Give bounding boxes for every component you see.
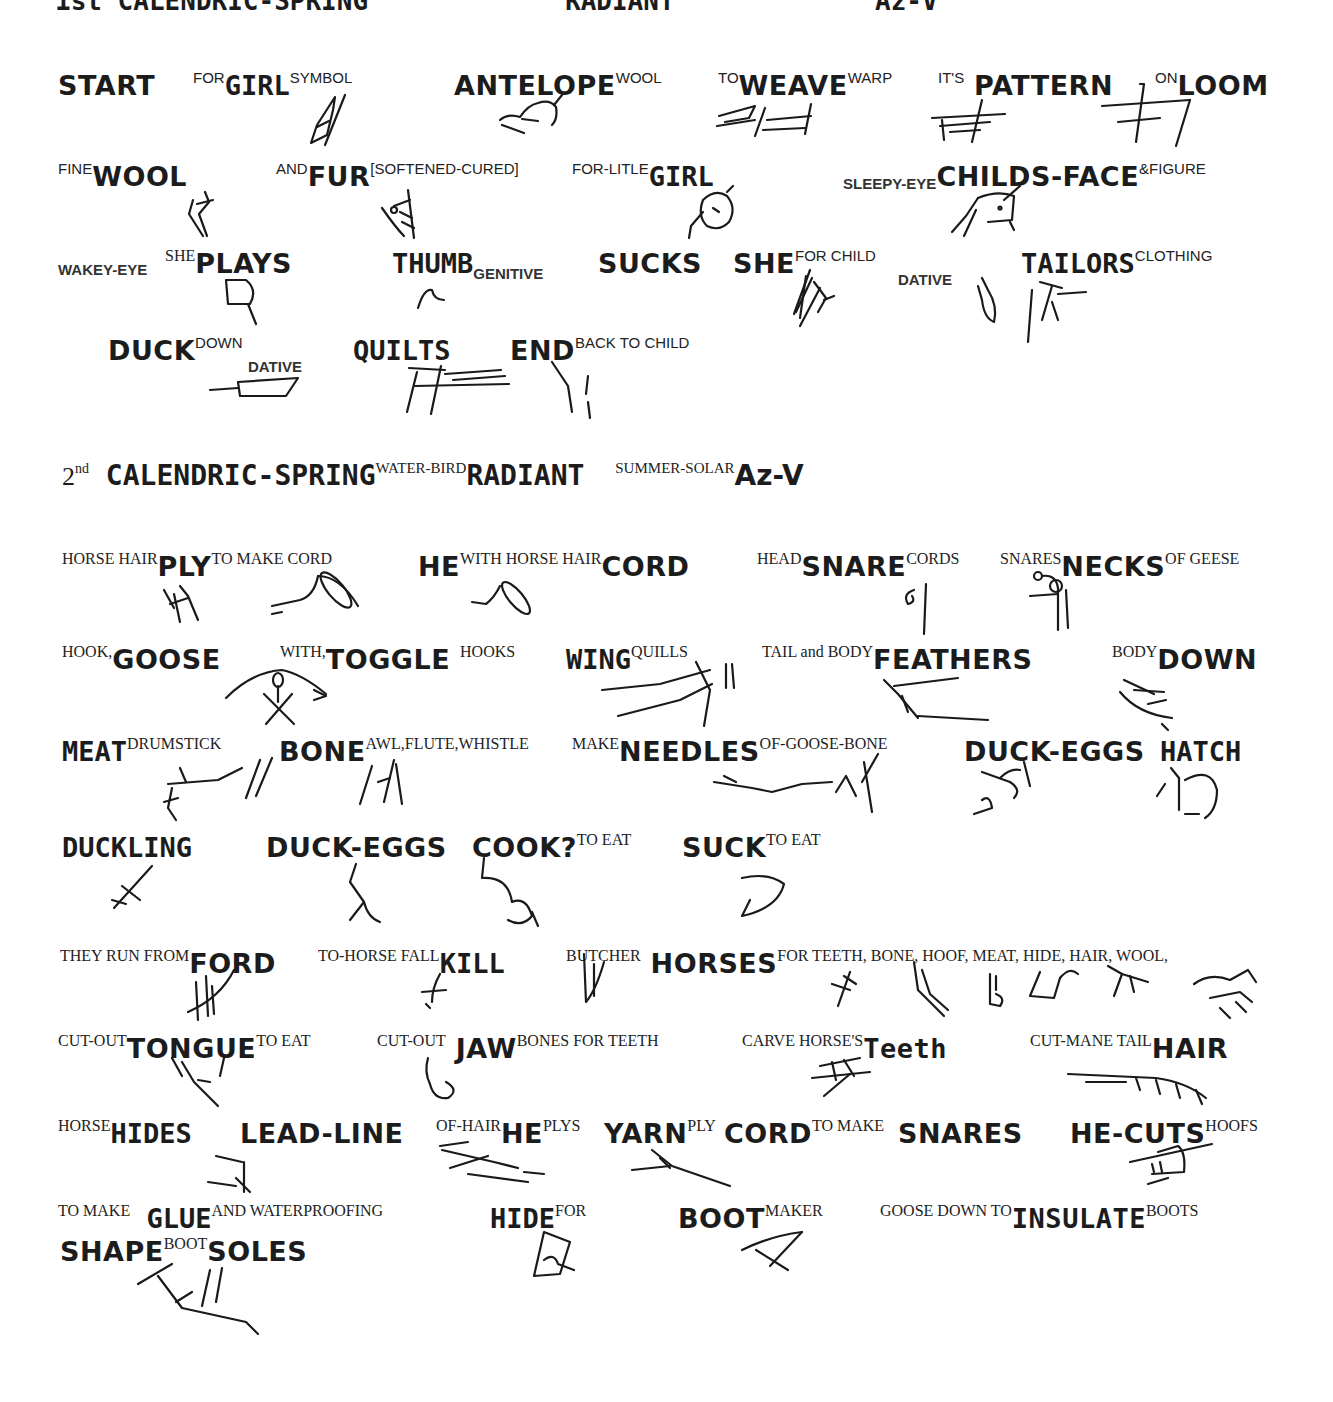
hair-wool-glyph [1190, 962, 1265, 1026]
wool-glyph [185, 190, 225, 244]
hides-glyph [206, 1152, 266, 1201]
word-glue: TO MAKE GLUEAND WATERPROOFING [58, 1205, 383, 1232]
word-he: HEWITH HORSE HAIRCORD [418, 553, 689, 580]
hoof-glyph [984, 972, 1014, 1016]
snare-glyph [900, 582, 940, 641]
word-fine-wool: FINEWOOL [58, 163, 187, 190]
duckling-glyph [108, 864, 158, 918]
jaw-glyph [420, 1056, 470, 1110]
bone-glyph [358, 758, 413, 812]
word-cord-2: CORDTO MAKE [724, 1120, 884, 1147]
feathers-glyph [878, 676, 998, 730]
needles-glyph [712, 752, 902, 821]
loom-glyph [1100, 82, 1195, 156]
word-dative-2: DATIVE [248, 349, 302, 376]
cook-glyph [478, 856, 548, 935]
word-sucks: SUCKS [598, 250, 702, 277]
soles-glyph [136, 1262, 266, 1346]
word-she-plays: SHEPLAYS [165, 250, 292, 277]
carve-teeth-glyph [810, 1054, 880, 1103]
bone-2-glyph [908, 960, 958, 1024]
word-thumb: THUMBGENITIVE [392, 250, 543, 277]
lead-line-glyph [438, 1138, 558, 1192]
word-pattern: IT'S PATTERN [938, 72, 1113, 99]
kill-glyph [418, 972, 458, 1016]
word-feathers: TAIL and BODYFEATHERS [762, 646, 1032, 673]
meat-glyph [158, 758, 298, 827]
girl-face-glyph [683, 186, 743, 245]
cutoff-heading-text: 1st CALENDRIC-SPRING [55, 0, 368, 16]
document-page: 1st CALENDRIC-SPRING RADIANT Az-V START … [0, 0, 1333, 1402]
hooves-glyph [1128, 1142, 1228, 1191]
word-goose: HOOK,GOOSE [62, 646, 221, 673]
pattern-glyph [930, 100, 1010, 149]
word-snares: SNARES [898, 1120, 1023, 1147]
mane-tail-glyph [1066, 1068, 1226, 1112]
down-glyph [1114, 674, 1184, 738]
tongue-glyph [168, 1056, 238, 1115]
word-lead-line: LEAD-LINE [240, 1120, 403, 1147]
duck-eggs-glyph [970, 760, 1050, 824]
necks-glyph [1028, 568, 1078, 637]
hide-boot-glyph [530, 1230, 590, 1284]
quilts-glyph [405, 360, 525, 419]
cutoff-heading: 1st CALENDRIC-SPRING RADIANT Az-V [55, 0, 368, 16]
word-shape-soles: SHAPEBOOTSOLES [60, 1238, 307, 1265]
hatch-glyph [1155, 766, 1235, 830]
suck-glyph [728, 870, 788, 929]
word-insulate: GOOSE DOWN TOINSULATEBOOTS [880, 1205, 1198, 1232]
antelope-glyph [498, 95, 568, 139]
word-hair: CUT-MANE TAILHAIR [1030, 1035, 1228, 1062]
he-cord-glyph [470, 578, 550, 627]
word-down: BODYDOWN [1112, 646, 1257, 673]
word-wakey-eye: WAKEY-EYE [58, 258, 147, 274]
plays-glyph [220, 276, 270, 335]
butcher-glyph [578, 952, 618, 1016]
she-glyph [790, 268, 850, 332]
dative-glyph [976, 276, 1006, 330]
word-kill: TO-HORSE FALLKILL [318, 950, 505, 977]
word-yarn: YARNPLY [604, 1120, 716, 1147]
boot-maker-glyph [740, 1230, 810, 1279]
thumb-glyph [414, 282, 454, 316]
end-glyph [550, 360, 610, 429]
word-suck: SUCKTO EAT [682, 834, 820, 861]
cord-glyph [270, 566, 370, 625]
word-weave: TOWEAVEWARP [718, 72, 892, 99]
word-hide-for: HIDEFOR [490, 1205, 586, 1232]
weave-glyph [715, 98, 825, 142]
goose-toggle-glyph [222, 668, 332, 732]
word-duckling: DUCKLING [62, 834, 192, 861]
duck-eggs-2-glyph [340, 862, 390, 931]
cutoff-az: Az-V [875, 0, 938, 16]
cutoff-radiant: RADIANT [565, 0, 675, 16]
word-dative: DATIVE [898, 262, 952, 289]
word-boot-maker: BOOTMAKER [678, 1205, 823, 1232]
section-heading-2nd-spring: 2nd CALENDRIC-SPRINGWATER-BIRDRADIANT SU… [62, 462, 804, 490]
girl-symbol-glyph [305, 95, 355, 154]
word-snare: HEADSNARECORDS [757, 553, 959, 580]
yarn-glyph [630, 1148, 740, 1197]
childs-face-glyph [948, 186, 1028, 245]
tailors-glyph [1022, 280, 1092, 349]
ply-glyph [160, 582, 215, 631]
word-fur: ANDFUR[SOFTENED-CURED] [276, 163, 519, 190]
word-hides: HORSEHIDES [58, 1120, 192, 1147]
teeth-glyph [826, 970, 866, 1014]
word-duck-down: DUCKDOWN [108, 337, 243, 364]
ford-glyph [184, 968, 244, 1027]
hide-glyph [1104, 962, 1154, 1011]
word-tailors: TAILORSCLOTHING [1021, 250, 1212, 277]
word-hatch: HATCH [1160, 738, 1241, 765]
wing-glyph [600, 660, 740, 734]
meat-2-glyph [1026, 966, 1086, 1010]
duck-down-glyph [208, 374, 308, 408]
word-duck-eggs-2: DUCK-EGGS [266, 834, 447, 861]
fur-glyph [378, 188, 428, 252]
word-start: START [58, 72, 155, 99]
